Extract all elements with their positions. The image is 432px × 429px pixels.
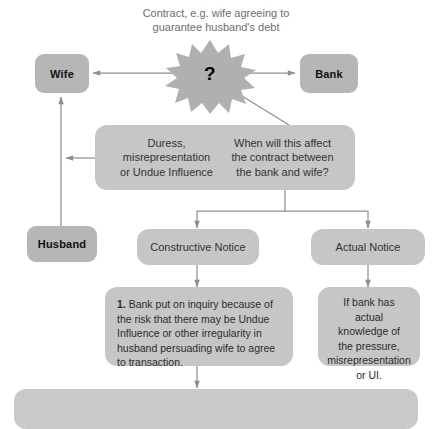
burst-question-mark: ? [204, 64, 216, 83]
